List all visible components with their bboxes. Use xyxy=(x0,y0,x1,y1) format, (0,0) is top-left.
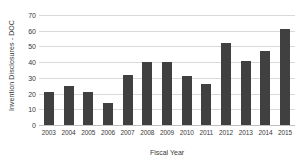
bar-slot xyxy=(216,15,236,125)
y-tick-label: 0 xyxy=(16,122,36,129)
y-tick-label: 40 xyxy=(16,59,36,66)
x-axis-title: Fiscal Year xyxy=(39,148,295,157)
y-tick-label: 70 xyxy=(16,12,36,19)
bar-2006[interactable] xyxy=(103,103,113,125)
x-tick-label: 2005 xyxy=(78,128,98,142)
x-axis-tick-labels: 2003200420052006200720082009201020112012… xyxy=(39,128,295,142)
bar-slot xyxy=(197,15,217,125)
plot-area xyxy=(39,15,295,125)
bar-2007[interactable] xyxy=(123,75,133,125)
bar-slot xyxy=(256,15,276,125)
bar-2015[interactable] xyxy=(280,29,290,125)
x-tick-label: 2014 xyxy=(256,128,276,142)
bar-slot xyxy=(236,15,256,125)
x-tick-label: 2015 xyxy=(275,128,295,142)
x-tick-label: 2013 xyxy=(236,128,256,142)
bar-slot xyxy=(39,15,59,125)
bar-2004[interactable] xyxy=(64,86,74,125)
bar-slot xyxy=(275,15,295,125)
bar-2012[interactable] xyxy=(221,43,231,125)
x-tick-label: 2011 xyxy=(197,128,217,142)
y-tick-label: 20 xyxy=(16,90,36,97)
x-tick-label: 2009 xyxy=(157,128,177,142)
x-tick-label: 2008 xyxy=(137,128,157,142)
bar-series xyxy=(39,15,295,125)
bar-slot xyxy=(59,15,79,125)
bar-2003[interactable] xyxy=(44,92,54,125)
bar-2011[interactable] xyxy=(201,84,211,125)
bar-2009[interactable] xyxy=(162,62,172,125)
bar-2014[interactable] xyxy=(260,51,270,125)
x-tick-label: 2003 xyxy=(39,128,59,142)
bar-2013[interactable] xyxy=(241,61,251,125)
y-tick-label: 50 xyxy=(16,43,36,50)
bar-chart-figure: Invention Disclosures - DOC 010203040506… xyxy=(0,0,301,163)
bar-slot xyxy=(98,15,118,125)
y-tick-label: 10 xyxy=(16,106,36,113)
bar-2008[interactable] xyxy=(142,62,152,125)
y-axis-tick-labels: 010203040506070 xyxy=(16,15,36,125)
y-tick-label: 30 xyxy=(16,74,36,81)
bar-2010[interactable] xyxy=(182,76,192,125)
x-tick-label: 2007 xyxy=(118,128,138,142)
x-tick-label: 2010 xyxy=(177,128,197,142)
x-tick-label: 2006 xyxy=(98,128,118,142)
bar-slot xyxy=(177,15,197,125)
x-tick-label: 2004 xyxy=(59,128,79,142)
bar-slot xyxy=(78,15,98,125)
bar-slot xyxy=(157,15,177,125)
y-tick-label: 60 xyxy=(16,27,36,34)
bar-slot xyxy=(137,15,157,125)
bar-slot xyxy=(118,15,138,125)
bar-2005[interactable] xyxy=(83,92,93,125)
gridline-0 xyxy=(39,125,295,126)
x-tick-label: 2012 xyxy=(216,128,236,142)
